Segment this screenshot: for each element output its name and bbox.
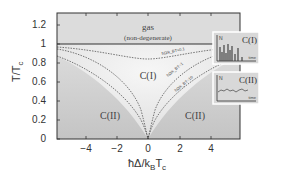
y-tick-label: 0	[24, 133, 46, 144]
c2-left-label: C(II)	[100, 110, 120, 122]
x-tick-label: −4	[76, 143, 96, 154]
x-tick-label: 0	[138, 143, 158, 154]
y-tick-label: 1.2	[24, 19, 46, 30]
svg-text:N: N	[219, 35, 223, 41]
inset-c1: N C(I) time	[213, 32, 259, 64]
x-tick-label: 2	[170, 143, 190, 154]
y-tick-label: 1	[24, 38, 46, 49]
x-tick-label: 4	[201, 143, 221, 154]
y-tick-label: 0.6	[24, 76, 46, 87]
c1-label: C(I)	[140, 70, 157, 82]
svg-text:C(I): C(I)	[242, 35, 257, 45]
gas-label: gas	[142, 22, 154, 32]
svg-text:C(II): C(II)	[239, 75, 257, 85]
inset-c2: N C(II) time	[213, 72, 259, 104]
x-tick-label: −2	[107, 143, 127, 154]
y-tick-label: 0.8	[24, 57, 46, 68]
x-axis-label: ħΔ/kBTc	[128, 157, 166, 172]
y-axis-label: T/Tc	[10, 62, 25, 83]
svg-text:time: time	[248, 55, 256, 60]
gas-sublabel: (non-degenerate)	[124, 34, 172, 42]
svg-text:N: N	[219, 75, 223, 81]
y-tick-label: 0.2	[24, 114, 46, 125]
svg-text:time: time	[248, 95, 256, 100]
c2-right-label: C(II)	[185, 110, 205, 122]
y-tick-label: 0.4	[24, 95, 46, 106]
